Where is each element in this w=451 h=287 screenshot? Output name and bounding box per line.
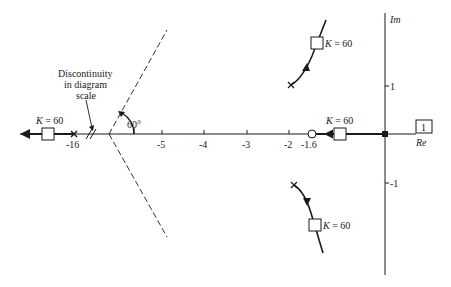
pole-origin-icon [382,131,388,137]
angle-label: 60° [127,119,141,130]
gain-marker-lower [309,219,321,231]
root-locus-diagram: -5 -4 -3 -2 -1.6 1 -1 Im Re 1 60° Discon… [0,0,451,287]
zero-minus-1-6-icon [308,130,316,138]
discontinuity-note-line1: Discontinuity [58,68,112,79]
arrow-left-icon [20,129,30,139]
imag-tick-label-1: 1 [390,81,395,92]
locus-branch-upper [291,20,326,85]
tick-label-minus-2: -2 [284,139,292,150]
tick-label-minus-5: -5 [157,139,165,150]
gain-marker-real [334,128,346,140]
pole-upper-complex-icon [288,82,294,88]
tick-label-minus-16: -16 [66,139,79,150]
tick-label-minus-3: -3 [242,139,250,150]
pole-lower-complex-icon [291,182,297,188]
tick-label-minus-1-6: -1.6 [301,139,317,150]
tick-label-minus-4: -4 [199,139,207,150]
gain-label-lower: K = 60 [322,220,350,231]
gain-label-upper: K = 60 [324,38,352,49]
real-axis-ticks [134,128,289,134]
imag-tick-label-minus-1: -1 [390,178,398,189]
arrow-lower-icon [303,198,311,206]
gain-label-left: K = 60 [35,115,63,126]
discontinuity-note-line3: scale [76,90,97,101]
arrow-real-icon [324,130,333,139]
discontinuity-note-line2: in diagram [64,79,107,90]
gain-marker-left [42,128,54,140]
discontinuity-leader [86,100,92,128]
imag-axis-label: Im [389,14,401,25]
real-axis-label: Re [415,137,427,148]
gain-marker-upper [311,37,323,49]
gain-label-real: K = 60 [325,115,353,126]
gain-box-label: 1 [421,122,426,133]
